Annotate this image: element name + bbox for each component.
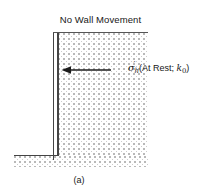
at-rest-text: (At Rest; [139,63,177,73]
figure-title: No Wall Movement [0,14,201,26]
soil-surface-line [53,32,148,33]
soil-foundation-region [14,156,148,167]
horizontal-stress-arrow-icon [60,64,112,76]
wall-inner-face-line [57,33,58,156]
wall-outer-face-line [53,33,54,160]
soil-backfill-region [58,33,148,156]
paren-close: ) [186,63,189,73]
wall-base-line [14,155,58,156]
prime-mark: ′ [133,58,135,70]
retaining-wall-diagram: No Wall Movement σ′h(At Rest; k0) (a) [0,0,201,193]
stress-label: σ′h(At Rest; k0) [128,62,189,77]
figure-caption: (a) [0,175,158,185]
